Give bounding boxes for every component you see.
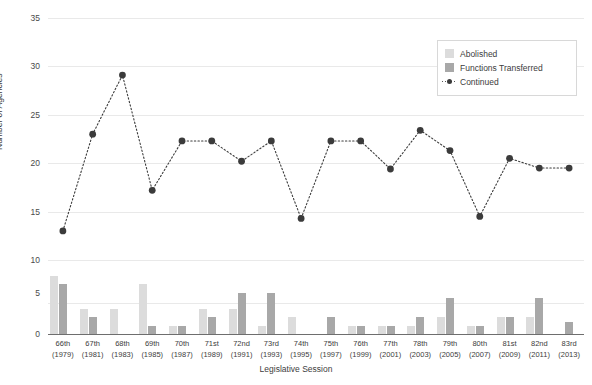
- bar-functions-transferred: [357, 326, 365, 334]
- bar-abolished: [437, 317, 445, 334]
- continued-data-point: [387, 166, 394, 173]
- x-tick-session: 79th: [443, 339, 458, 348]
- x-tick-session: 70th: [175, 339, 190, 348]
- x-tick-session: 83rd: [562, 339, 577, 348]
- bar-abolished: [258, 326, 266, 334]
- bar-abolished: [288, 317, 296, 334]
- x-tick-session: 76th: [353, 339, 368, 348]
- bar-group: [405, 272, 435, 334]
- bar-y-tick-label: 0: [8, 329, 40, 339]
- bar-abolished: [378, 326, 386, 334]
- continued-data-point: [89, 131, 96, 138]
- bar-abolished: [407, 326, 415, 334]
- continued-data-point: [298, 215, 305, 222]
- bar-group: [495, 272, 525, 334]
- bar-functions-transferred: [506, 317, 514, 334]
- bar-chart-panel: [48, 272, 584, 334]
- bar-abolished: [467, 326, 475, 334]
- bar-abolished: [526, 317, 534, 334]
- legend-swatch-icon: [445, 63, 454, 72]
- bar-y-tick-label: 5: [8, 288, 40, 298]
- continued-data-point: [149, 187, 156, 194]
- continued-data-point: [208, 138, 215, 145]
- x-tick-session: 72nd: [233, 339, 250, 348]
- continued-data-point: [179, 138, 186, 145]
- bar-group: [435, 272, 465, 334]
- bar-functions-transferred: [565, 322, 573, 334]
- x-tick-session: 68th: [115, 339, 130, 348]
- y-tick-label: 15: [8, 207, 40, 217]
- bar-group: [286, 272, 316, 334]
- bar-functions-transferred: [446, 298, 454, 334]
- bar-group: [167, 272, 197, 334]
- x-tick-session: 75th: [324, 339, 339, 348]
- bar-abolished: [139, 284, 147, 334]
- y-tick-label: 30: [8, 61, 40, 71]
- bar-functions-transferred: [327, 317, 335, 334]
- continued-data-point: [238, 158, 245, 165]
- continued-data-point: [357, 138, 364, 145]
- bar-functions-transferred: [387, 326, 395, 334]
- y-tick-label: 35: [8, 13, 40, 23]
- continued-data-point: [476, 213, 483, 220]
- x-tick-session: 73rd: [264, 339, 279, 348]
- bar-abolished: [50, 276, 58, 334]
- continued-data-point: [327, 138, 334, 145]
- bar-group: [376, 272, 406, 334]
- chart-legend: AbolishedFunctions TransferredContinued: [437, 40, 577, 96]
- legend-label: Functions Transferred: [460, 63, 543, 73]
- legend-item[interactable]: Abolished: [445, 47, 569, 60]
- continued-data-point: [268, 138, 275, 145]
- bar-abolished: [169, 326, 177, 334]
- bar-functions-transferred: [89, 317, 97, 334]
- bar-group: [316, 272, 346, 334]
- x-tick-session: 80th: [472, 339, 487, 348]
- continued-data-point: [447, 147, 454, 154]
- continued-data-point: [506, 155, 513, 162]
- bar-functions-transferred: [267, 293, 275, 334]
- bar-functions-transferred: [208, 317, 216, 334]
- legend-item[interactable]: Functions Transferred: [445, 61, 569, 74]
- continued-data-point: [119, 72, 126, 79]
- y-tick-label: 25: [8, 110, 40, 120]
- bar-abolished: [497, 317, 505, 334]
- y-tick-label: 20: [8, 158, 40, 168]
- bar-functions-transferred: [416, 317, 424, 334]
- bar-functions-transferred: [238, 293, 246, 334]
- x-tick-session: 77th: [383, 339, 398, 348]
- bar-functions-transferred: [148, 326, 156, 334]
- legend-item[interactable]: Continued: [445, 75, 569, 88]
- x-tick-session: 82nd: [531, 339, 548, 348]
- continued-data-point: [417, 127, 424, 134]
- x-tick-label: 83rd(2013): [547, 338, 591, 360]
- bar-group: [137, 272, 167, 334]
- x-axis-title: Legislative Session: [0, 364, 592, 374]
- bar-abolished: [199, 309, 207, 334]
- continued-line-path: [63, 75, 569, 231]
- bar-abolished: [80, 309, 88, 334]
- bar-functions-transferred: [476, 326, 484, 334]
- continued-data-point: [536, 165, 543, 172]
- bar-group: [108, 272, 138, 334]
- chart-figure: Number of Agencies 101520253035 Abolishe…: [0, 0, 592, 385]
- legend-swatch-icon: [445, 49, 454, 58]
- x-tick-session: 78th: [413, 339, 428, 348]
- x-tick-session: 71st: [205, 339, 219, 348]
- x-tick-session: 81st: [502, 339, 516, 348]
- bar-group: [465, 272, 495, 334]
- gridline: [48, 260, 584, 261]
- bar-group: [197, 272, 227, 334]
- legend-dotted-line-icon: [445, 77, 454, 86]
- y-tick-label: 10: [8, 255, 40, 265]
- bar-functions-transferred: [178, 326, 186, 334]
- bar-group: [524, 272, 554, 334]
- bar-abolished: [110, 309, 118, 334]
- x-tick-session: 67th: [85, 339, 100, 348]
- bar-group: [48, 272, 78, 334]
- x-tick-session: 66th: [56, 339, 71, 348]
- x-tick-session: 74th: [294, 339, 309, 348]
- bar-group: [346, 272, 376, 334]
- bar-functions-transferred: [59, 284, 67, 334]
- bar-abolished: [229, 309, 237, 334]
- x-tick-year: (2013): [547, 349, 591, 360]
